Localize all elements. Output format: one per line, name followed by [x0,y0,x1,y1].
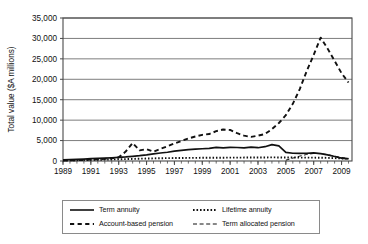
y-tick-label: 30,000 [32,34,57,43]
x-tick-label: 2007 [305,167,324,176]
x-tick-label: 1991 [82,167,101,176]
y-tick-label: 10,000 [32,116,57,125]
plot-frame [63,18,352,161]
series-line-account-based-pension [63,38,349,161]
x-tick-label: 2001 [221,167,240,176]
legend-item-term-annuity: Term annuity [69,206,192,214]
x-tick-label: 2003 [249,167,268,176]
y-tick-label: 35,000 [32,14,57,23]
y-tick-label: 25,000 [32,55,57,64]
legend-label-lifetime-annuity: Lifetime annuity [222,206,272,213]
x-tick-label: 1993 [110,167,129,176]
legend-item-term-allocated-pension: Term allocated pension [192,220,315,228]
chart-legend: Term annuity Lifetime annuity Account-ba… [62,200,320,234]
y-tick-label: 20,000 [32,75,57,84]
legend-label-term-annuity: Term annuity [99,206,140,213]
legend-label-account-based-pension: Account-based pension [99,220,173,227]
chart-figure: Total value ($A millions)05,00010,00015,… [0,0,368,244]
x-tick-label: 2005 [277,167,296,176]
y-axis-title: Total value ($A millions) [7,46,16,132]
x-tick-label: 1999 [193,167,212,176]
legend-item-lifetime-annuity: Lifetime annuity [192,206,315,214]
legend-label-term-allocated-pension: Term allocated pension [222,220,295,227]
y-tick-label: 0 [52,157,57,166]
x-tick-label: 1995 [137,167,156,176]
x-tick-label: 2009 [332,167,351,176]
legend-swatch-dotted [192,206,218,214]
legend-swatch-dashed [69,220,95,228]
legend-item-account-based-pension: Account-based pension [69,220,192,228]
x-tick-label: 1989 [54,167,73,176]
x-tick-label: 1997 [165,167,184,176]
y-tick-label: 15,000 [32,96,57,105]
legend-swatch-fine-dashed [192,220,218,228]
y-tick-label: 5,000 [37,136,58,145]
legend-swatch-solid [69,206,95,214]
